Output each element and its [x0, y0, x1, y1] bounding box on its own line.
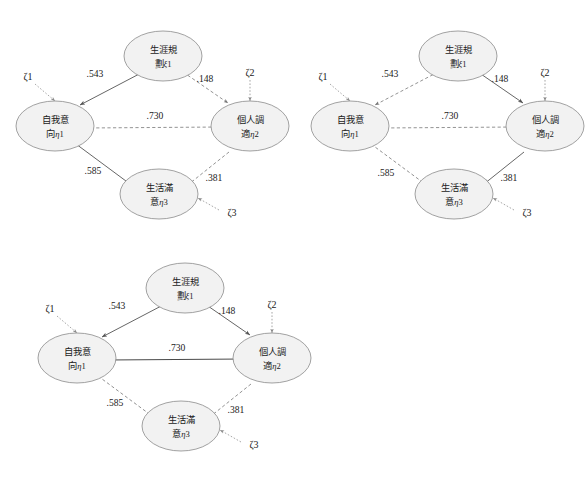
label-zeta-1: ζ1	[23, 71, 32, 83]
coef-career-to-self: .543	[382, 68, 399, 79]
coef-self-to-life: .585	[378, 167, 395, 178]
node-life-line2: 意	[445, 196, 454, 207]
node-career-index: 1	[189, 291, 193, 301]
node-self-index: 1	[81, 361, 85, 371]
svg-text:劃ξ1: 劃ξ1	[177, 290, 194, 301]
node-career[interactable]: 生涯規 劃ξ1	[146, 263, 224, 313]
label-zeta-3: ζ3	[522, 207, 531, 219]
coef-self-to-life: .585	[85, 165, 102, 176]
node-adjust-index: 2	[254, 129, 258, 139]
node-life-index: 3	[458, 197, 462, 207]
label-zeta-3: ζ3	[227, 207, 236, 219]
node-life[interactable]: 生活滿 意η3	[142, 401, 220, 451]
node-self[interactable]: 自我意 向η1	[16, 101, 94, 151]
node-self-line1: 自我意	[42, 114, 69, 125]
node-career-line2: 劃	[177, 290, 186, 301]
disturbance-z1-arrow	[330, 84, 350, 101]
svg-text:意η3: 意η3	[445, 196, 463, 207]
coef-career-to-adjust: .148	[219, 305, 236, 316]
node-career-line2: 劃	[450, 58, 459, 69]
node-life-line1: 生活滿	[146, 182, 173, 193]
node-self[interactable]: 自我意 向η1	[311, 101, 389, 151]
path-self-to-life	[76, 144, 130, 184]
svg-text:適η2: 適η2	[263, 360, 281, 371]
path-self-to-adjust	[380, 127, 517, 128]
node-adjust-line2: 適	[241, 128, 250, 139]
panel-3: 生涯規 劃ξ1 自我意 向η1 個人調 適η2 生活滿 意η3 .543 .14…	[38, 263, 311, 451]
path-self-to-life	[98, 376, 152, 416]
svg-text:劃ξ1: 劃ξ1	[155, 58, 172, 69]
node-adjust-line1: 個人調	[237, 114, 264, 125]
path-self-to-adjust	[107, 359, 244, 360]
svg-text:向η1: 向η1	[341, 128, 359, 139]
figure-canvas: 生涯規 劃ξ1 自我意 向η1 個人調 適η2 生活滿 意η3 .543 .14…	[0, 0, 585, 478]
label-zeta-2: ζ2	[267, 299, 276, 311]
path-self-to-adjust	[85, 127, 222, 128]
node-self[interactable]: 自我意 向η1	[38, 333, 116, 383]
node-career[interactable]: 生涯規 劃ξ1	[124, 31, 202, 81]
label-zeta-2: ζ2	[245, 67, 254, 79]
svg-text:適η2: 適η2	[536, 128, 554, 139]
node-life-line1: 生活滿	[441, 182, 468, 193]
node-life[interactable]: 生活滿 意η3	[120, 169, 198, 219]
node-self-line2: 向	[46, 128, 55, 139]
node-life-index: 3	[163, 197, 167, 207]
coef-self-to-adjust: .730	[147, 110, 164, 121]
svg-text:意η3: 意η3	[150, 196, 168, 207]
node-life[interactable]: 生活滿 意η3	[415, 169, 493, 219]
node-career[interactable]: 生涯規 劃ξ1	[419, 31, 497, 81]
svg-text:向η1: 向η1	[68, 360, 86, 371]
node-self-index: 1	[59, 129, 63, 139]
node-career-line1: 生涯規	[445, 44, 472, 55]
label-zeta-1: ζ1	[318, 71, 327, 83]
node-self-line1: 自我意	[64, 346, 91, 357]
coef-adjust-to-life: .381	[228, 404, 245, 415]
path-self-to-life	[371, 144, 425, 184]
node-career-line1: 生涯規	[172, 276, 199, 287]
coef-self-to-adjust: .730	[442, 110, 459, 121]
node-adjust-line2: 適	[263, 360, 272, 371]
svg-text:劃ξ1: 劃ξ1	[450, 58, 467, 69]
node-life-index: 3	[185, 429, 189, 439]
node-self-line2: 向	[341, 128, 350, 139]
disturbance-z1-arrow	[57, 316, 77, 333]
node-adjust[interactable]: 個人調 適η2	[233, 333, 311, 383]
coef-self-to-adjust: .730	[169, 342, 186, 353]
label-zeta-1: ζ1	[45, 303, 54, 315]
node-life-line1: 生活滿	[168, 414, 195, 425]
node-adjust[interactable]: 個人調 適η2	[211, 101, 289, 151]
node-adjust-index: 2	[549, 129, 553, 139]
coef-adjust-to-life: .381	[501, 172, 518, 183]
node-adjust-line1: 個人調	[532, 114, 559, 125]
coef-career-to-self: .543	[87, 68, 104, 79]
node-life-line2: 意	[172, 428, 181, 439]
coef-career-to-adjust: .148	[492, 73, 509, 84]
node-career-line2: 劃	[155, 58, 164, 69]
coef-career-to-adjust: .148	[197, 73, 214, 84]
disturbance-z1-arrow	[35, 84, 55, 101]
node-adjust[interactable]: 個人調 適η2	[506, 101, 584, 151]
node-adjust-index: 2	[276, 361, 280, 371]
node-career-line1: 生涯規	[150, 44, 177, 55]
disturbance-z3-arrow	[220, 430, 241, 442]
disturbance-z3-arrow	[198, 198, 219, 210]
coef-career-to-self: .543	[109, 300, 126, 311]
node-adjust-line2: 適	[536, 128, 545, 139]
label-zeta-2: ζ2	[540, 67, 549, 79]
node-career-index: 1	[462, 59, 466, 69]
node-adjust-line1: 個人調	[259, 346, 286, 357]
node-self-line2: 向	[68, 360, 77, 371]
node-self-line1: 自我意	[337, 114, 364, 125]
svg-text:適η2: 適η2	[241, 128, 259, 139]
label-zeta-3: ζ3	[249, 439, 258, 451]
coef-self-to-life: .585	[107, 397, 124, 408]
node-self-index: 1	[354, 129, 358, 139]
disturbance-z3-arrow	[493, 198, 514, 210]
svg-text:向η1: 向η1	[46, 128, 64, 139]
panel-1: 生涯規 劃ξ1 自我意 向η1 個人調 適η2 生活滿 意η3 .543 .14…	[16, 31, 289, 219]
coef-adjust-to-life: .381	[206, 172, 223, 183]
svg-text:意η3: 意η3	[172, 428, 190, 439]
panel-2: 生涯規 劃ξ1 自我意 向η1 個人調 適η2 生活滿 意η3 .543 .14…	[311, 31, 584, 219]
node-career-index: 1	[167, 59, 171, 69]
node-life-line2: 意	[150, 196, 159, 207]
